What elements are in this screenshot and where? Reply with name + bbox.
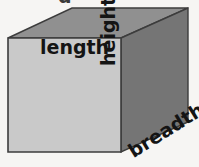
cuboid-diagram: g length height breadth xyxy=(0,0,199,167)
height-label: height xyxy=(97,0,119,66)
cropped-text-fragment: g xyxy=(58,0,72,3)
